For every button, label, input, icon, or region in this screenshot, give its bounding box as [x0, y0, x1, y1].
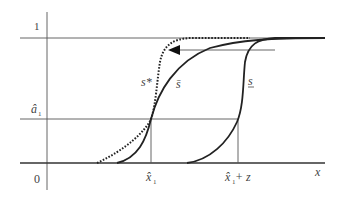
svg-text:x̂: x̂	[145, 170, 152, 184]
label-x-hat: x̂ 1	[145, 170, 157, 186]
svg-text:x̂: x̂	[224, 170, 231, 184]
s-underline-curve	[187, 38, 325, 163]
diagram-canvas: 1 â 1 0 x̂ 1 x̂ 1 + z x s* s̄ s	[0, 0, 344, 198]
s-star-curve	[97, 38, 250, 163]
svg-text:s: s	[248, 74, 253, 88]
diagram: 1 â 1 0 x̂ 1 x̂ 1 + z x s* s̄ s	[0, 0, 344, 198]
svg-text:1: 1	[38, 110, 42, 118]
shift-arrow-head-icon	[168, 45, 180, 55]
svg-text:â: â	[31, 102, 37, 116]
label-a-hat: â 1	[31, 102, 42, 118]
svg-text:+ z: + z	[235, 170, 251, 184]
svg-text:1: 1	[153, 178, 157, 186]
label-s-bar: s̄	[176, 77, 181, 91]
label-x-hat-plus-z: x̂ 1 + z	[224, 170, 251, 186]
label-zero: 0	[34, 172, 40, 186]
label-s-star: s*	[141, 75, 152, 89]
label-s-underline: s	[248, 74, 254, 88]
label-one: 1	[34, 20, 40, 32]
label-x: x	[314, 165, 321, 179]
